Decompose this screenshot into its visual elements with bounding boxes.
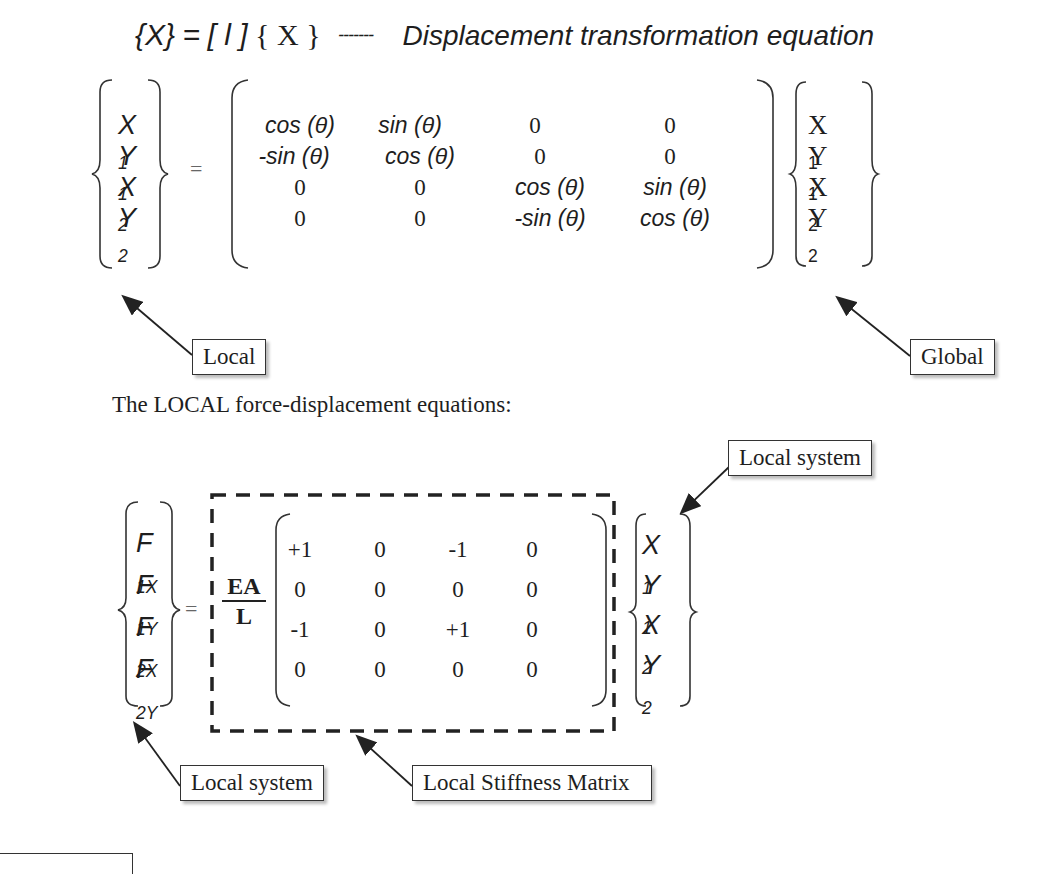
matrix-cell: 0 [492, 650, 572, 690]
matrix-cell: +1 [260, 530, 340, 570]
matrix-cell: sin (θ) [615, 172, 735, 203]
transformation-matrix: cos (θ) sin (θ) 0 0 -sin (θ) cos (θ) 0 0… [240, 110, 760, 240]
vec-entry: F [136, 612, 157, 643]
vec-entry: F [136, 654, 157, 685]
vec-entry: X [118, 110, 136, 141]
matrix-cell: cos (θ) [490, 172, 610, 203]
callout-global: Global [910, 339, 995, 375]
matrix-cell: 0 [492, 570, 572, 610]
local-disp-vector: X1 Y1 X2 Y2 [642, 530, 660, 690]
matrix-cell: 0 [610, 110, 730, 141]
vec-entry: F [136, 528, 157, 559]
matrix-cell: 0 [340, 650, 420, 690]
vec-sub: 2 [118, 246, 128, 266]
matrix-cell: -sin (θ) [234, 141, 354, 172]
matrix-cell: 0 [418, 650, 498, 690]
matrix-cell: 0 [240, 203, 360, 234]
matrix-cell: 0 [340, 570, 420, 610]
vec-entry: Y [118, 141, 136, 172]
vec-entry: Y [808, 141, 828, 172]
global-displacement-vector: X1 Y1 X2 Y2 [808, 110, 828, 234]
local-displacement-vector: X1 Y1 X2 Y2 [118, 110, 136, 234]
matrix-cell: 0 [610, 141, 730, 172]
arrow-global-icon [838, 298, 910, 356]
vec-entry: Y [118, 203, 136, 234]
callout-local-system-top: Local system [728, 440, 872, 476]
matrix-cell: 0 [492, 530, 572, 570]
matrix-cell: 0 [340, 530, 420, 570]
callout-local-stiffness-matrix: Local Stiffness Matrix [412, 765, 652, 801]
vec-entry: Y [642, 570, 660, 601]
vec-entry: F [136, 570, 157, 601]
matrix-cell: 0 [360, 203, 480, 234]
vec-entry: Y [642, 650, 660, 681]
matrix-cell: cos (θ) [240, 110, 360, 141]
vec-entry: X [118, 172, 136, 203]
matrix-cell: cos (θ) [360, 141, 480, 172]
local-vector-right-brace-icon [148, 80, 168, 268]
vec-entry: X [808, 110, 828, 141]
vec-sub: 2Y [136, 703, 157, 723]
vec-entry: X [808, 172, 828, 203]
vec-entry: Y [808, 203, 828, 234]
matrix-cell: +1 [418, 610, 498, 650]
matrix-cell: -1 [260, 610, 340, 650]
local-stiffness-matrix: +1 0 -1 0 0 0 0 0 -1 0 +1 0 0 0 0 0 [280, 530, 600, 700]
arrow-local-system-top-icon [682, 466, 730, 512]
callout-local: Local [192, 339, 266, 375]
vec-sub: 2 [642, 698, 652, 718]
matrix-cell: 0 [360, 172, 480, 203]
section-text: The LOCAL force-displacement equations: [112, 392, 512, 418]
cropped-box [0, 853, 133, 874]
matrix-cell: 0 [492, 610, 572, 650]
matrix-cell: 0 [475, 110, 595, 141]
vec-sub: 2 [808, 246, 818, 266]
arrow-local-icon [124, 297, 192, 355]
matrix-cell: 0 [260, 570, 340, 610]
stiffness-equals: = [185, 596, 197, 622]
matrix-cell: sin (θ) [350, 110, 470, 141]
global-vector-left-brace-icon [790, 82, 806, 266]
transform-equals: = [190, 156, 202, 182]
matrix-cell: -sin (θ) [490, 203, 610, 234]
matrix-cell: 0 [340, 610, 420, 650]
vec-entry: X [642, 530, 660, 561]
vec-entry: X [642, 610, 660, 641]
callout-local-system-bottom: Local system [180, 765, 324, 801]
matrix-cell: 0 [260, 650, 340, 690]
matrix-cell: 0 [240, 172, 360, 203]
arrow-stiffness-icon [358, 737, 412, 786]
local-vector-left-brace-icon [92, 80, 112, 268]
matrix-cell: 0 [480, 141, 600, 172]
matrix-cell: 0 [418, 570, 498, 610]
force-vector-left-brace-icon [118, 502, 138, 706]
force-vector: F1X F1Y F2X F2Y [136, 528, 157, 696]
matrix-cell: -1 [418, 530, 498, 570]
matrix-cell: cos (θ) [615, 203, 735, 234]
